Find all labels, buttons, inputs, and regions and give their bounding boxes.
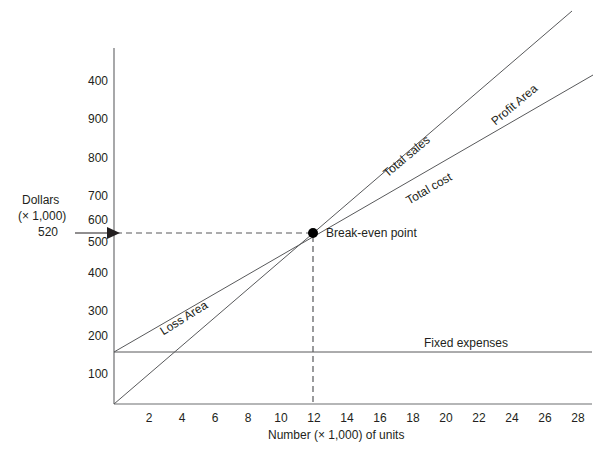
y-tick-label-100: 100	[74, 368, 108, 380]
x-tick-label-28: 28	[565, 412, 591, 424]
x-axis-title: Number (× 1,000) of units	[268, 429, 404, 441]
y-tick-label-800: 800	[74, 152, 108, 164]
y-tick-label-1000: 400	[74, 75, 108, 87]
x-tick-label-14: 14	[334, 412, 360, 424]
x-tick-label-18: 18	[400, 412, 426, 424]
fixed-expenses-label: Fixed expenses	[424, 337, 508, 349]
break-even-value-label: 520	[38, 226, 58, 238]
break-even-chart: 400 900 800 700 600 500 400 300 200 100 …	[0, 0, 596, 454]
chart-canvas	[0, 0, 596, 454]
y-tick-label-700: 700	[74, 190, 108, 202]
x-tick-label-10: 10	[268, 412, 294, 424]
x-tick-label-22: 22	[466, 412, 492, 424]
y-tick-label-900: 900	[74, 113, 108, 125]
y-tick-label-500: 500	[74, 236, 108, 248]
y-axis-title-line1: Dollars	[22, 194, 59, 206]
break-even-point-marker[interactable]	[308, 228, 318, 238]
x-tick-label-8: 8	[235, 412, 261, 424]
x-tick-label-16: 16	[367, 412, 393, 424]
y-axis-title-line2: (× 1,000)	[18, 210, 66, 222]
break-even-point-label: Break-even point	[326, 227, 417, 239]
x-tick-label-24: 24	[499, 412, 525, 424]
x-tick-label-2: 2	[136, 412, 162, 424]
x-tick-label-6: 6	[202, 412, 228, 424]
x-tick-label-20: 20	[433, 412, 459, 424]
x-tick-label-26: 26	[532, 412, 558, 424]
y-tick-label-400: 400	[74, 267, 108, 279]
x-tick-label-12: 12	[301, 412, 327, 424]
y-tick-label-300: 300	[74, 305, 108, 317]
y-tick-label-600: 600	[74, 214, 108, 226]
y-tick-label-200: 200	[74, 330, 108, 342]
x-tick-label-4: 4	[169, 412, 195, 424]
